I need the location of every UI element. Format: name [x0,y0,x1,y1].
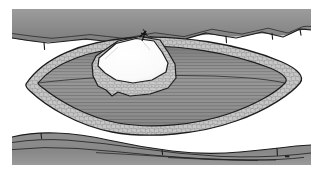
illustration-canvas [0,0,323,172]
skin-band-bottom-marker [285,155,289,157]
surgical-illustration-figure: Open elliptical surgical incision with r… [0,0,323,172]
